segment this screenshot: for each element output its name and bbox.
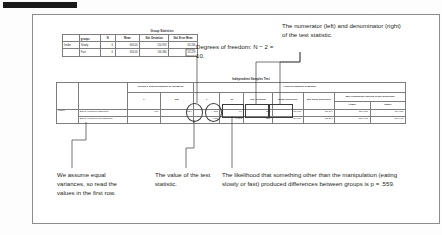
- callout-box-meandiff: [245, 104, 269, 118]
- top-black-rule: [3, 2, 77, 8]
- gs-col-n: N: [100, 35, 115, 42]
- gs-row1-sd: 154.919: [140, 42, 169, 49]
- gs-col-groups: groups: [79, 35, 100, 42]
- ist-col-lower: Lower: [335, 102, 370, 109]
- gs-row1-n: 6: [100, 42, 115, 49]
- ist-row2-upper: 134.917: [370, 116, 406, 123]
- gs-row1-var: Intake: [63, 42, 80, 49]
- ist-row1-label: Equal variances assumed: [78, 109, 127, 116]
- gs-row1-mean: 600.00: [115, 42, 140, 49]
- gs-col-sem: Std. Error Mean: [169, 35, 198, 42]
- ist-row2-label: Equal variances not assumed: [78, 116, 127, 123]
- ist-col-f: F: [127, 93, 160, 109]
- annotation-p-value: The likelihood that something other than…: [222, 170, 402, 188]
- ist-row2-sediff: 82.664: [303, 116, 334, 123]
- table-row: Fast 6 650.00 130.384 53.229: [63, 49, 198, 56]
- ist-row1-upper: 134.187: [370, 109, 406, 116]
- gs-row1-sem: 63.246: [169, 42, 198, 49]
- figure-page: Group Statistics groups N Mean Std. Devi…: [0, 0, 442, 235]
- gs-col-blank: [63, 35, 80, 42]
- gs-row2-sem: 53.229: [169, 49, 198, 56]
- ist-levene-header: Levene's Test for Equality of Variances: [127, 83, 193, 93]
- gs-row2-sd: 130.384: [140, 49, 169, 56]
- ist-row2-lower: -234.917: [335, 116, 370, 123]
- group-statistics-title: Group Statistics: [112, 29, 212, 33]
- ist-row-var: Intake: [57, 109, 79, 123]
- callout-box-sediff: [269, 104, 293, 118]
- gs-col-sd: Std. Deviation: [140, 35, 169, 42]
- ist-col-sediff: Std. Error Difference: [303, 93, 334, 109]
- ist-row1-f: .134: [127, 109, 160, 116]
- annotation-test-statistic: The value of the test statistic.: [155, 170, 217, 188]
- ist-col-blank2: [78, 83, 127, 110]
- annotation-numerator-denominator: The numerator (left) and denominator (ri…: [282, 21, 404, 39]
- gs-col-mean: Mean: [115, 35, 140, 42]
- gs-row2-mean: 650.00: [115, 49, 140, 56]
- table-header-row: groups N Mean Std. Deviation Std. Error …: [63, 35, 198, 42]
- gs-row2-group: Fast: [79, 49, 100, 56]
- callout-oval-df: [205, 103, 222, 122]
- independent-samples-test-title: Independent Samples Test: [176, 77, 326, 81]
- annotation-equal-variances: We assume equal variances, so read the v…: [57, 170, 135, 197]
- ist-row1-sediff: 82.664: [303, 109, 334, 116]
- gs-row2-n: 6: [100, 49, 115, 56]
- annotation-degrees-of-freedom: Degrees of freedom: N − 2 = 10.: [196, 42, 276, 60]
- callout-box-sig2: [222, 104, 244, 118]
- gs-row2-var: [63, 49, 80, 56]
- table-header-row: Levene's Test for Equality of Variances …: [57, 83, 406, 93]
- ist-col-upper: Upper: [370, 102, 406, 109]
- ist-row1-lower: -234.187: [335, 109, 370, 116]
- table-row: Intake Slowly 6 600.00 154.919 63.246: [63, 42, 198, 49]
- callout-oval-t: [186, 103, 203, 122]
- ist-col-blank1: [57, 83, 79, 110]
- group-statistics-table: groups N Mean Std. Deviation Std. Error …: [62, 34, 198, 57]
- ist-col-ci: 95% Confidence Interval of the Differenc…: [335, 93, 406, 102]
- ist-ttest-header: t-test for Equality of Means: [194, 83, 406, 93]
- ist-row2-f: [127, 116, 160, 123]
- gs-row1-group: Slowly: [79, 42, 100, 49]
